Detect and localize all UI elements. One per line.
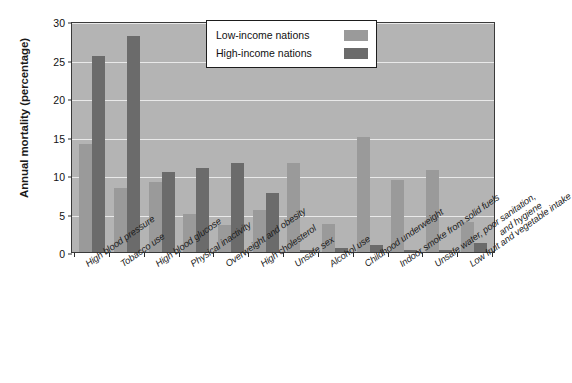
y-axis-title: Annual mortality (percentage)	[18, 0, 30, 238]
bar	[79, 144, 92, 252]
legend-entry-low-income: Low-income nations	[216, 26, 368, 44]
bar-group	[110, 23, 145, 252]
legend-swatch-high-income	[344, 48, 368, 59]
bar	[127, 36, 140, 252]
bar	[92, 56, 105, 252]
legend-label-high-income: High-income nations	[216, 47, 338, 59]
legend-swatch-low-income	[344, 30, 368, 41]
bar-group	[387, 23, 422, 252]
chart-legend: Low-income nations High-income nations	[206, 20, 377, 68]
bar-group	[75, 23, 110, 252]
legend-entry-high-income: High-income nations	[216, 44, 368, 62]
legend-label-low-income: Low-income nations	[216, 29, 338, 41]
x-axis-labels: High blood pressureTobacco useHigh blood…	[0, 256, 515, 383]
